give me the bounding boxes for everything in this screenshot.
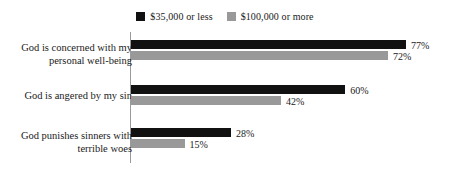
- bar-value-2-high: 15%: [185, 138, 208, 149]
- category-label-2-line-0: God punishes sinners with: [6, 130, 132, 143]
- category-label-1: God is angered by my sin: [6, 90, 132, 103]
- bar-value-0-low: 77%: [406, 39, 429, 50]
- bar-value-1-high: 42%: [281, 95, 304, 106]
- bar-value-2-low: 28%: [231, 127, 254, 138]
- category-label-2: God punishes sinners with terrible woes: [6, 130, 132, 155]
- bar-0-high: [131, 51, 388, 60]
- category-label-0-line-1: personal well-being: [6, 55, 132, 68]
- category-label-0: God is concerned with my personal well-b…: [6, 42, 132, 67]
- bar-2-low: [131, 128, 231, 137]
- plot-area: God is concerned with my personal well-b…: [0, 0, 450, 177]
- category-label-2-line-1: terrible woes: [6, 143, 132, 156]
- bar-value-1-low: 60%: [345, 84, 368, 95]
- bar-chart: $35,000 or less $100,000 or more God is …: [0, 0, 450, 177]
- bar-1-high: [131, 96, 281, 105]
- bar-1-low: [131, 85, 345, 94]
- category-label-0-line-0: God is concerned with my: [6, 42, 132, 55]
- category-label-1-line-0: God is angered by my sin: [6, 90, 132, 103]
- bar-value-0-high: 72%: [388, 50, 411, 61]
- bar-2-high: [131, 139, 185, 148]
- bar-0-low: [131, 40, 406, 49]
